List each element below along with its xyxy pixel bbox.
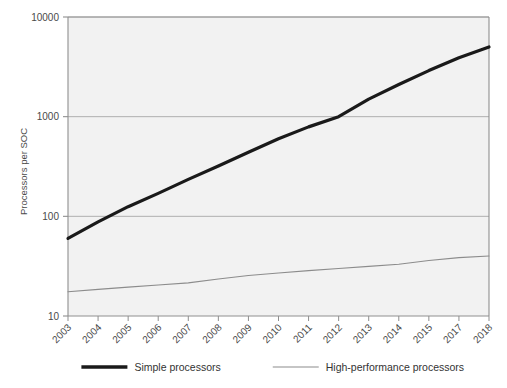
x-tick-label-2005: 2005 — [110, 321, 134, 345]
y-axis-title: Processors per SOC — [18, 128, 29, 215]
x-tick-label-2003: 2003 — [50, 321, 74, 345]
legend-label-simple-processors: Simple processors — [134, 361, 220, 373]
x-tick-label-2004: 2004 — [80, 321, 104, 345]
x-tick-label-2009: 2009 — [230, 321, 254, 345]
x-tick-label-2010: 2010 — [260, 321, 284, 345]
x-tick-label-2013: 2013 — [351, 321, 375, 345]
x-axis-ticks: 2003200420052006200720082009201020112012… — [50, 316, 495, 345]
legend-label-high-performance-processors: High-performance processors — [326, 361, 464, 373]
chart-container: 10000100010010 2003200420052006200720082… — [0, 0, 507, 388]
y-tick-label-10000: 10000 — [31, 12, 59, 23]
x-tick-label-2015: 2015 — [411, 321, 435, 345]
chart-legend: Simple processorsHigh-performance proces… — [81, 361, 464, 373]
x-tick-label-2008: 2008 — [200, 321, 224, 345]
plot-area-background — [68, 17, 489, 316]
x-tick-label-2014: 2014 — [381, 321, 405, 345]
x-tick-label-2011: 2011 — [291, 321, 314, 344]
y-axis-ticks: 10000100010010 — [31, 12, 68, 322]
x-tick-label-2012: 2012 — [321, 321, 345, 345]
y-tick-label-10: 10 — [48, 311, 60, 322]
y-tick-label-100: 100 — [42, 211, 59, 222]
y-tick-label-1000: 1000 — [37, 111, 60, 122]
x-tick-label-2017: 2017 — [441, 321, 465, 345]
line-chart: 10000100010010 2003200420052006200720082… — [0, 0, 507, 388]
x-tick-label-2007: 2007 — [170, 321, 194, 345]
x-tick-label-2006: 2006 — [140, 321, 164, 345]
x-tick-label-2018: 2018 — [471, 321, 495, 345]
